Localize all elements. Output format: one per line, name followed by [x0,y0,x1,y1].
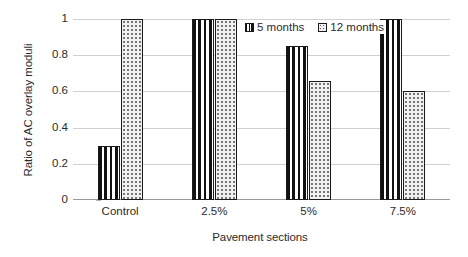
x-axis-tick-label: Control [102,205,139,217]
legend-item: 12 months [318,21,384,33]
y-axis-tick-label: 0.4 [28,122,68,134]
legend-label: 5 months [257,21,304,33]
bar-chart: Ratio of AC overlay moduli 00.20.40.60.8… [0,0,468,257]
y-axis-tick-label: 0.6 [28,86,68,98]
legend-swatch-icon [318,23,327,32]
y-axis-tick-label: 0.8 [28,49,68,61]
y-axis-tick-label: 1 [28,13,68,25]
bar-7-5pct-5-months [380,19,402,200]
y-axis-tick-mark [96,200,101,201]
y-axis-tick-label: 0 [28,194,68,206]
x-axis-tick-label: 5% [300,205,317,217]
legend-swatch-icon [245,23,254,32]
legend-label: 12 months [330,21,384,33]
bar-5pct-12-months [309,81,331,200]
bar-2-5pct-5-months [192,19,214,200]
y-axis-tick-label: 0.2 [28,158,68,170]
legend-item: 5 months [245,21,304,33]
chart-legend: 5 months12 months [243,20,386,34]
x-axis-tick-label: 2.5% [201,205,227,217]
bar-2-5pct-12-months [215,19,237,200]
y-axis-tick-labels: 00.20.40.60.81 [28,19,68,200]
bar-7-5pct-12-months [403,91,425,200]
x-axis-title: Pavement sections [70,231,450,243]
bar-Control-12-months [121,19,143,200]
plot-area [73,19,450,200]
x-axis-tick-label: 7.5% [390,205,416,217]
bar-5pct-5-months [286,46,308,200]
bar-Control-5-months [98,146,120,200]
